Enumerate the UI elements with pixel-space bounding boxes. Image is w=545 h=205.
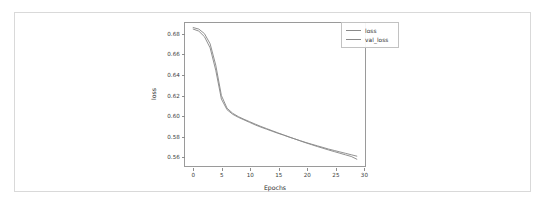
- y-tick-mark: [182, 96, 185, 97]
- x-tick-label: 5: [220, 172, 224, 178]
- x-tick-mark: [222, 168, 223, 171]
- x-tick-label: 20: [304, 172, 311, 178]
- y-tick-label: 0.60: [167, 113, 180, 119]
- x-tick-mark: [250, 168, 251, 171]
- y-axis-label: loss: [150, 88, 157, 100]
- x-tick-label: 30: [361, 172, 368, 178]
- y-tick-mark: [182, 54, 185, 55]
- y-tick-mark: [182, 34, 185, 35]
- x-tick-label: 10: [247, 172, 254, 178]
- loss-chart-figure: loss Epochs 0.560.580.600.620.640.660.68…: [14, 12, 531, 192]
- x-tick-label: 0: [191, 172, 195, 178]
- y-tick-mark: [182, 157, 185, 158]
- y-tick-label: 0.68: [167, 31, 180, 37]
- legend-label-loss: loss: [365, 28, 377, 34]
- x-tick-mark: [364, 168, 365, 171]
- y-tick-label: 0.58: [167, 134, 180, 140]
- series-lines: [185, 23, 365, 166]
- legend-swatch-loss: [346, 30, 361, 31]
- legend-item-val-loss: val_loss: [346, 35, 394, 44]
- x-tick-label: 25: [332, 172, 339, 178]
- x-tick-mark: [279, 168, 280, 171]
- y-tick-label: 0.56: [167, 154, 180, 160]
- screenshot-root: loss Epochs 0.560.580.600.620.640.660.68…: [0, 0, 545, 205]
- y-tick-mark: [182, 137, 185, 138]
- chart-legend: loss val_loss: [341, 22, 399, 48]
- legend-label-val-loss: val_loss: [365, 37, 389, 43]
- x-tick-mark: [307, 168, 308, 171]
- x-tick-mark: [193, 168, 194, 171]
- plot-area: 0.560.580.600.620.640.660.68 05101520253…: [184, 22, 366, 167]
- y-tick-label: 0.62: [167, 93, 180, 99]
- y-tick-label: 0.64: [167, 72, 180, 78]
- y-tick-mark: [182, 116, 185, 117]
- x-axis-label: Epochs: [184, 184, 366, 191]
- series-line-val-loss: [193, 28, 357, 160]
- series-line-loss: [193, 29, 357, 156]
- legend-item-loss: loss: [346, 26, 394, 35]
- y-tick-label: 0.66: [167, 51, 180, 57]
- y-tick-mark: [182, 75, 185, 76]
- legend-swatch-val-loss: [346, 39, 361, 40]
- x-tick-mark: [336, 168, 337, 171]
- x-tick-label: 15: [275, 172, 282, 178]
